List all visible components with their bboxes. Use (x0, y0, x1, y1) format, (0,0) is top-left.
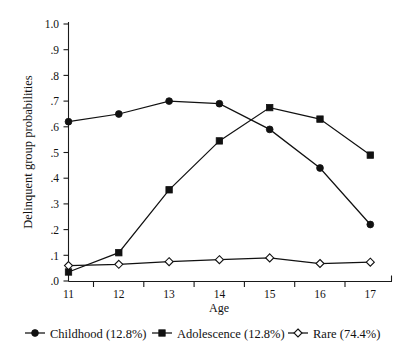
y-tick-label: .9 (50, 44, 59, 56)
y-tick-label: .5 (50, 147, 59, 159)
data-point-rare (65, 262, 73, 270)
legend-item-rare[interactable]: Rare (74.4%) (288, 327, 380, 341)
y-axis-ticks (64, 24, 69, 281)
legend-label-rare: Rare (74.4%) (313, 327, 380, 341)
data-point-rare (115, 260, 123, 268)
x-tick-label: 15 (264, 288, 276, 300)
data-point-childhood (266, 126, 273, 133)
data-point-adolescence (367, 152, 373, 158)
y-tick-label: .4 (50, 172, 59, 184)
x-tick-label: 14 (214, 288, 226, 300)
data-point-childhood (166, 98, 173, 105)
y-tick-label: .7 (50, 95, 59, 107)
y-tick-label: .3 (50, 198, 59, 210)
chart-legend: Childhood (12.8%) Adolescence (12.8%) Ra… (25, 327, 380, 341)
x-axis-title: Age (209, 301, 229, 315)
x-tick-label: 12 (113, 288, 125, 300)
data-point-rare (165, 258, 173, 266)
series-markers-adolescence (65, 104, 373, 275)
line-chart: 1.0 .9 .8 .7 .6 .5 .4 .3 .2 .1 .0 11 12 … (0, 0, 412, 355)
data-point-childhood (115, 111, 122, 118)
y-tick-label: .6 (50, 121, 59, 133)
data-point-childhood (367, 221, 374, 228)
chart-figure: 1.0 .9 .8 .7 .6 .5 .4 .3 .2 .1 .0 11 12 … (0, 0, 412, 355)
legend-item-childhood[interactable]: Childhood (12.8%) (25, 327, 147, 341)
x-tick-label: 13 (163, 288, 175, 300)
data-point-rare (366, 258, 374, 266)
series-line-adolescence (69, 108, 371, 272)
legend-marker-filled-square-icon (159, 330, 165, 336)
legend-item-adolescence[interactable]: Adolescence (12.8%) (152, 327, 285, 341)
y-tick-label: .2 (50, 224, 59, 236)
y-tick-label: .0 (50, 275, 59, 287)
x-tick-labels: 11 12 13 14 15 16 17 (63, 288, 376, 300)
legend-label-childhood: Childhood (12.8%) (50, 327, 147, 341)
y-axis-title: Delinquent group probabilities (21, 75, 35, 229)
data-point-adolescence (116, 250, 122, 256)
series-line-childhood (69, 101, 371, 224)
x-axis-ticks (94, 282, 346, 288)
series-markers-childhood (65, 98, 374, 228)
data-point-childhood (216, 100, 223, 107)
legend-label-adolescence: Adolescence (12.8%) (177, 327, 285, 341)
data-point-adolescence (216, 138, 222, 144)
x-tick-label: 17 (365, 288, 377, 300)
data-point-adolescence (317, 116, 323, 122)
legend-marker-open-diamond-icon (294, 329, 302, 337)
y-tick-labels: 1.0 .9 .8 .7 .6 .5 .4 .3 .2 .1 .0 (45, 18, 60, 287)
legend-marker-filled-circle-icon (32, 330, 39, 337)
y-tick-label: .8 (50, 70, 59, 82)
x-tick-label: 16 (314, 288, 326, 300)
x-tick-label: 11 (63, 288, 74, 300)
data-point-rare (215, 256, 223, 264)
y-tick-label: .1 (50, 250, 59, 262)
data-point-rare (316, 260, 324, 268)
data-point-childhood (65, 118, 72, 125)
data-point-rare (266, 254, 274, 262)
data-point-childhood (317, 165, 324, 172)
y-tick-label: 1.0 (45, 18, 60, 30)
data-point-adolescence (166, 187, 172, 193)
data-point-adolescence (267, 104, 273, 110)
